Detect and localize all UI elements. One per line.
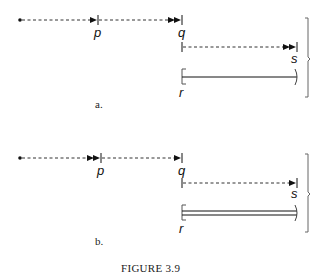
arrow-double-icon — [168, 17, 175, 23]
label-p: p — [93, 25, 101, 40]
paren-r-end — [295, 205, 297, 221]
label-s: s — [291, 51, 298, 66]
arrow-single-icon — [90, 17, 97, 23]
arrow-double-icon — [283, 44, 290, 50]
brace-b — [305, 154, 310, 232]
label-r: r — [179, 85, 184, 100]
figure-caption: FIGURE 3.9 — [121, 262, 180, 274]
label-q: q — [178, 25, 186, 40]
label-s: s — [291, 186, 298, 201]
figure-diagram: p q s r a. p q s — [0, 0, 323, 280]
bracket-r-start — [182, 205, 186, 220]
label-q: q — [178, 163, 186, 178]
label-r: r — [179, 221, 184, 236]
panel-a-caption: a. — [95, 98, 103, 110]
brace-a — [305, 18, 310, 97]
arrow-single-icon — [174, 155, 181, 161]
panel-a: p q s r a. — [18, 15, 310, 110]
panel-b-caption: b. — [95, 235, 104, 247]
panel-b: p q s r b. — [18, 153, 310, 247]
arrow-double-icon — [87, 155, 94, 161]
origin-dot — [18, 156, 22, 160]
origin-dot — [18, 18, 22, 22]
label-p: p — [96, 163, 104, 178]
